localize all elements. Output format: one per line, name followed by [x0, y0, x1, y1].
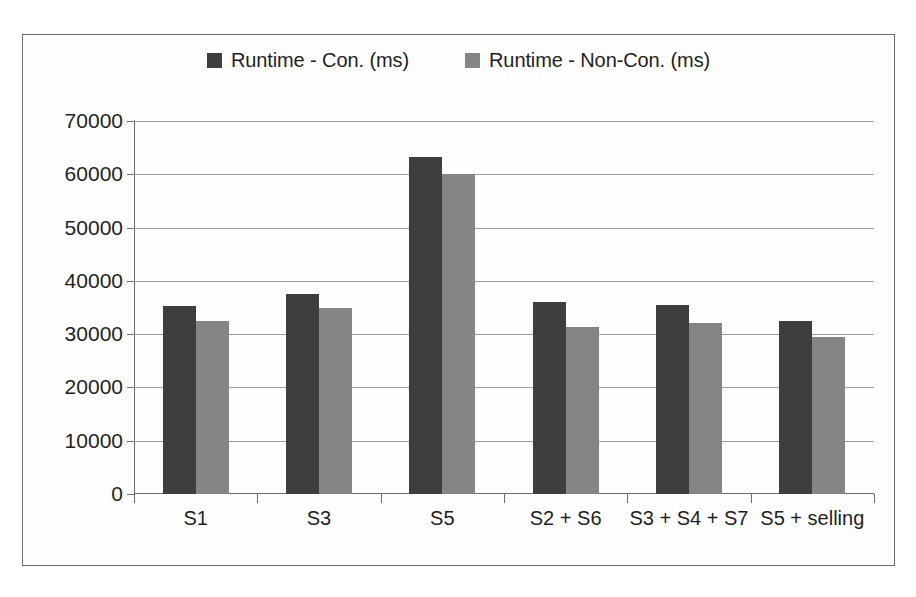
y-axis-tick: [127, 281, 134, 282]
bar-group: [381, 121, 504, 494]
x-axis-tick: [257, 494, 258, 503]
x-axis-tick: [751, 494, 752, 503]
x-axis-labels: S1S3S5S2 + S6S3 + S4 + S7S5 + selling: [134, 507, 874, 530]
bar: [442, 174, 475, 494]
x-axis-label: S5: [381, 507, 504, 530]
bar: [533, 302, 566, 494]
bar: [286, 294, 319, 494]
chart-legend: Runtime - Con. (ms) Runtime - Non-Con. (…: [23, 49, 894, 72]
x-axis-label: S2 + S6: [504, 507, 627, 530]
legend-label: Runtime - Non-Con. (ms): [489, 49, 710, 72]
legend-entry: Runtime - Non-Con. (ms): [465, 49, 710, 72]
y-axis-tick: [127, 441, 134, 442]
bar-group: [134, 121, 257, 494]
x-axis-label: S3: [257, 507, 380, 530]
bar-group: [627, 121, 750, 494]
y-axis-tick-label: 50000: [65, 216, 123, 240]
y-axis-tick-label: 40000: [65, 269, 123, 293]
bar: [409, 157, 442, 494]
y-axis-tick-label: 70000: [65, 109, 123, 133]
x-axis-label: S3 + S4 + S7: [627, 507, 750, 530]
x-axis-tick: [874, 494, 875, 503]
y-axis-tick: [127, 387, 134, 388]
x-axis-tick: [134, 494, 135, 503]
chart-figure: Runtime - Con. (ms) Runtime - Non-Con. (…: [22, 34, 895, 566]
bar-group: [504, 121, 627, 494]
bar: [689, 323, 722, 494]
y-axis-tick-label: 0: [111, 482, 123, 506]
x-axis-tick: [381, 494, 382, 503]
bar: [779, 321, 812, 494]
bar: [319, 308, 352, 495]
x-axis-tick: [627, 494, 628, 503]
bar-group: [751, 121, 874, 494]
x-axis-label: S5 + selling: [751, 507, 874, 530]
plot-area: 700006000050000400003000020000100000: [134, 121, 874, 494]
y-axis-tick-label: 10000: [65, 429, 123, 453]
y-axis-tick-label: 60000: [65, 162, 123, 186]
x-axis-tick: [504, 494, 505, 503]
x-axis-label: S1: [134, 507, 257, 530]
legend-label: Runtime - Con. (ms): [231, 49, 409, 72]
legend-square-icon: [465, 53, 480, 68]
bar: [566, 327, 599, 494]
bar: [163, 306, 196, 494]
bar: [196, 321, 229, 494]
bar: [812, 337, 845, 494]
y-axis-tick: [127, 121, 134, 122]
y-axis-tick: [127, 174, 134, 175]
x-axis-ticks: [134, 494, 874, 503]
y-axis-tick: [127, 494, 134, 495]
legend-square-icon: [207, 53, 222, 68]
bar-group: [257, 121, 380, 494]
bar: [656, 305, 689, 494]
y-axis-tick: [127, 228, 134, 229]
y-axis-tick-label: 30000: [65, 322, 123, 346]
bar-series-container: [134, 121, 874, 494]
y-axis-tick-label: 20000: [65, 375, 123, 399]
legend-entry: Runtime - Con. (ms): [207, 49, 409, 72]
y-axis-tick: [127, 334, 134, 335]
